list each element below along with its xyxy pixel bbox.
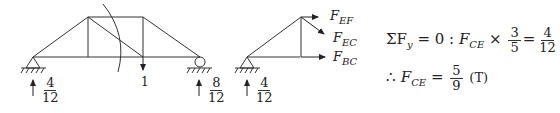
load-label: 1	[141, 75, 149, 89]
reaction-left-label: 412	[38, 76, 63, 104]
force-label-ec: FEC	[333, 30, 357, 48]
equation-sum-fy: ΣFy = 0 : FCE × 35=412	[386, 26, 560, 54]
force-label-ef: FEF	[330, 8, 353, 26]
section-cut-line	[103, 4, 121, 72]
pin-support-fbd	[235, 57, 260, 73]
pin-support-left	[21, 57, 46, 73]
full-truss	[33, 4, 200, 72]
equation-result: ∴ FCE = 59 (T)	[386, 64, 488, 92]
reaction-right-label: 812	[204, 76, 229, 104]
force-arrow-ec	[301, 17, 324, 34]
truss-diagrams	[0, 0, 560, 113]
force-label-bc: FBC	[333, 49, 357, 67]
roller-support-right	[187, 57, 212, 73]
reaction-fbd-label: 412	[252, 76, 277, 104]
free-body-truss	[247, 17, 301, 57]
